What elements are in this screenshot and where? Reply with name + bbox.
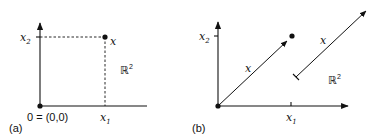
x2-label-a: x2 bbox=[20, 31, 31, 46]
space-label-a: ℝ2 bbox=[120, 63, 133, 76]
point-x-a bbox=[102, 34, 107, 39]
space-label-b: ℝ2 bbox=[328, 73, 341, 86]
vector-x-from-origin bbox=[218, 41, 287, 106]
x1-label-b: x1 bbox=[286, 111, 297, 126]
caption-a: (a) bbox=[9, 122, 22, 134]
vector-label-origin: x bbox=[245, 62, 252, 75]
point-x-b bbox=[289, 33, 294, 38]
caption-b: (b) bbox=[192, 122, 205, 134]
origin-label-a: 0 = (0,0) bbox=[27, 111, 68, 123]
panel-b: x2 x x ℝ2 x1 (b) bbox=[192, 11, 366, 134]
point-label-a: x bbox=[110, 35, 117, 48]
panel-a: x2 x ℝ2 0 = (0,0) x1 (a) bbox=[9, 23, 147, 134]
x1-label-a: x1 bbox=[100, 111, 111, 126]
x2-label-b: x2 bbox=[199, 30, 210, 45]
vector-label-free: x bbox=[320, 34, 327, 47]
figure-canvas: x2 x ℝ2 0 = (0,0) x1 (a) x2 x x ℝ2 x1 (b… bbox=[0, 0, 386, 140]
vector-x-translated bbox=[296, 11, 366, 77]
figure: x2 x ℝ2 0 = (0,0) x1 (a) x2 x x ℝ2 x1 (b… bbox=[0, 0, 386, 140]
origin-point-a bbox=[37, 103, 42, 108]
